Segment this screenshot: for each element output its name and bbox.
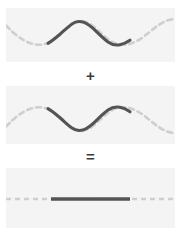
destructive-interference-figure: + = xyxy=(0,0,181,232)
wave-a-dashed-path xyxy=(6,19,175,45)
wave-a-solid-path xyxy=(48,21,130,45)
result-plot xyxy=(6,168,175,228)
wave-a-plot xyxy=(6,8,175,62)
wave-b-dashed-path xyxy=(6,107,175,133)
panel-wave-b xyxy=(6,86,175,144)
wave-b-plot xyxy=(6,86,175,144)
wave-b-solid-path xyxy=(48,107,130,131)
operator-equals: = xyxy=(0,149,181,164)
operator-plus: + xyxy=(0,68,181,83)
panel-result xyxy=(6,168,175,228)
panel-wave-a xyxy=(6,8,175,62)
